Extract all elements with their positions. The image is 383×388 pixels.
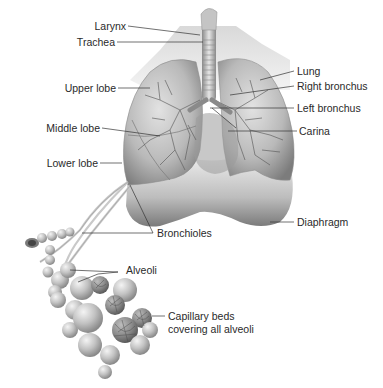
- label-trachea: Trachea: [60, 36, 115, 48]
- label-left-bronchus: Left bronchus: [297, 102, 361, 114]
- label-carina: Carina: [299, 125, 330, 137]
- label-middle-lobe: Middle lobe: [22, 122, 100, 134]
- larynx-shape: [201, 8, 217, 30]
- label-right-bronchus: Right bronchus: [297, 80, 368, 92]
- label-lower-lobe: Lower lobe: [22, 157, 98, 169]
- respiratory-diagram: Larynx Trachea Upper lobe Middle lobe Lo…: [0, 0, 383, 388]
- label-upper-lobe: Upper lobe: [40, 82, 116, 94]
- label-lung: Lung: [297, 65, 320, 77]
- label-diaphragm: Diaphragm: [297, 216, 348, 228]
- alveoli-leader-2: [70, 270, 118, 272]
- label-alveoli: Alveoli: [126, 264, 157, 276]
- alveoli-cluster: [48, 262, 158, 379]
- label-larynx: Larynx: [72, 20, 126, 32]
- label-capillary-beds-line2: covering all alveoli: [168, 323, 254, 335]
- label-bronchioles: Bronchioles: [157, 227, 212, 239]
- label-capillary-beds-line1: Capillary beds: [168, 310, 235, 322]
